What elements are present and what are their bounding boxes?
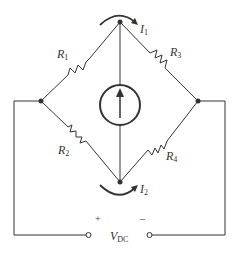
label-r1: R1 — [57, 48, 68, 62]
node-top — [118, 20, 123, 25]
label-i1: I1 — [140, 23, 148, 37]
circuit-drawing — [0, 0, 236, 253]
circuit-diagram: R1 R3 R2 R4 I1 I2 VDC + – — [0, 0, 236, 253]
resistor-r2 — [41, 101, 120, 182]
label-r3: R3 — [170, 46, 181, 60]
label-minus: – — [140, 214, 145, 224]
current-arrow-i2 — [100, 185, 138, 195]
label-r4: R4 — [166, 150, 177, 164]
node-bottom — [118, 180, 123, 185]
label-plus: + — [95, 214, 101, 224]
arrow-up-icon — [116, 88, 124, 97]
terminal-negative — [147, 233, 152, 238]
label-i2: I2 — [140, 183, 148, 197]
label-vdc: VDC — [110, 230, 128, 244]
resistor-r4 — [120, 101, 198, 182]
current-source — [100, 22, 140, 182]
node-left — [39, 99, 44, 104]
terminal-positive — [86, 233, 91, 238]
node-right — [196, 99, 201, 104]
label-r2: R2 — [58, 144, 69, 158]
